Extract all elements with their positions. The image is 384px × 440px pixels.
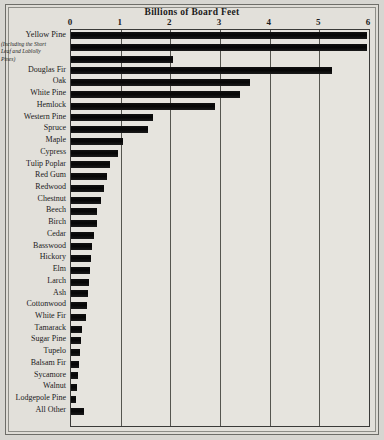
category-label: White Pine	[30, 89, 66, 97]
bar	[71, 372, 78, 379]
bar	[71, 197, 101, 204]
yellow-pine-note-line: Pines)	[1, 56, 66, 63]
bar	[71, 44, 367, 51]
bar	[71, 208, 97, 215]
bar-row	[71, 253, 369, 265]
category-label: Tulip Poplar	[26, 160, 66, 168]
x-tick-2: 2	[167, 17, 172, 27]
yellow-pine-note-line: Leaf and Loblolly	[1, 48, 66, 55]
bar	[71, 279, 89, 286]
category-label: Western Pine	[24, 113, 66, 121]
bar	[71, 67, 332, 74]
x-tick-1: 1	[117, 17, 122, 27]
category-label: Redwood	[35, 183, 66, 191]
bar	[71, 114, 153, 121]
category-label: Cedar	[47, 230, 66, 238]
bar	[71, 408, 84, 415]
bar	[71, 326, 82, 333]
bar-row	[71, 136, 369, 148]
bar-row	[71, 112, 369, 124]
category-label: Douglas Fir	[28, 66, 66, 74]
yellow-pine-note-line: (Including the Short	[1, 41, 66, 48]
bar	[71, 138, 123, 145]
bar	[71, 349, 80, 356]
category-label: Elm	[53, 265, 66, 273]
bar-row	[71, 347, 369, 359]
bar	[71, 185, 104, 192]
category-label: Maple	[46, 136, 66, 144]
category-label: Cottonwood	[26, 300, 66, 308]
bar-row	[71, 312, 369, 324]
bar	[71, 56, 173, 63]
bar-row	[71, 159, 369, 171]
x-tick-6: 6	[366, 17, 371, 27]
bar	[71, 290, 88, 297]
category-label: Balsam Fir	[31, 359, 66, 367]
x-tick-5: 5	[316, 17, 321, 27]
bar	[71, 255, 91, 262]
chart-title: Billions of Board Feet	[0, 7, 384, 17]
bar	[71, 220, 97, 227]
bar-row	[71, 42, 369, 54]
bar	[71, 173, 107, 180]
category-label: Larch	[47, 277, 66, 285]
x-tick-3: 3	[217, 17, 222, 27]
bar-row	[71, 288, 369, 300]
category-label: Tupelo	[44, 347, 66, 355]
category-label: White Fir	[35, 312, 66, 320]
bar-row	[71, 124, 369, 136]
bar-row	[71, 370, 369, 382]
bar	[71, 232, 94, 239]
bar-row	[71, 382, 369, 394]
bar	[71, 32, 367, 39]
category-label: Walnut	[43, 382, 66, 390]
bar-row	[71, 394, 369, 406]
category-label: Beech	[46, 206, 66, 214]
bar	[71, 150, 118, 157]
category-label: Chestnut	[38, 195, 66, 203]
bar	[71, 314, 86, 321]
bar-row	[71, 229, 369, 241]
plot-area	[70, 29, 370, 427]
x-axis-tick-labels: 0123456	[0, 17, 384, 29]
category-label: Sycamore	[34, 371, 66, 379]
x-tick-0: 0	[68, 17, 73, 27]
category-label: Basswood	[33, 242, 66, 250]
bar	[71, 267, 90, 274]
chart-plot-wrapper: Billions of Board Feet 0123456 Yellow Pi…	[0, 0, 384, 440]
bar-row	[71, 77, 369, 89]
bar-row	[71, 323, 369, 335]
bar	[71, 161, 110, 168]
chart-frame: Billions of Board Feet 0123456 Yellow Pi…	[0, 0, 384, 440]
category-label-column: Yellow Pine(Including the ShortLeaf and …	[0, 29, 68, 425]
bar-row	[71, 65, 369, 77]
category-label: Oak	[53, 77, 66, 85]
bar-row	[71, 147, 369, 159]
bar	[71, 91, 240, 98]
bar	[71, 243, 92, 250]
bar-row	[71, 335, 369, 347]
category-label: Ash	[53, 289, 66, 297]
bar-row	[71, 241, 369, 253]
category-label: Lodgepole Pine	[16, 394, 66, 402]
category-label: Hickory	[40, 253, 66, 261]
bar-row	[71, 30, 369, 42]
bar-row	[71, 206, 369, 218]
bar	[71, 126, 148, 133]
bar-row	[71, 405, 369, 417]
bar-row	[71, 182, 369, 194]
category-label: Spruce	[44, 124, 66, 132]
bar	[71, 302, 87, 309]
bar-row	[71, 100, 369, 112]
category-label: Hemlock	[37, 101, 66, 109]
category-label: Birch	[48, 218, 66, 226]
category-label: Cypress	[40, 148, 66, 156]
category-label: Yellow Pine	[26, 31, 66, 39]
bar-row	[71, 358, 369, 370]
bar	[71, 337, 81, 344]
yellow-pine-note: (Including the ShortLeaf and LoblollyPin…	[1, 41, 66, 63]
category-label: Tamarack	[35, 324, 66, 332]
bar	[71, 361, 79, 368]
bar-rows	[71, 30, 369, 426]
bar-row	[71, 171, 369, 183]
